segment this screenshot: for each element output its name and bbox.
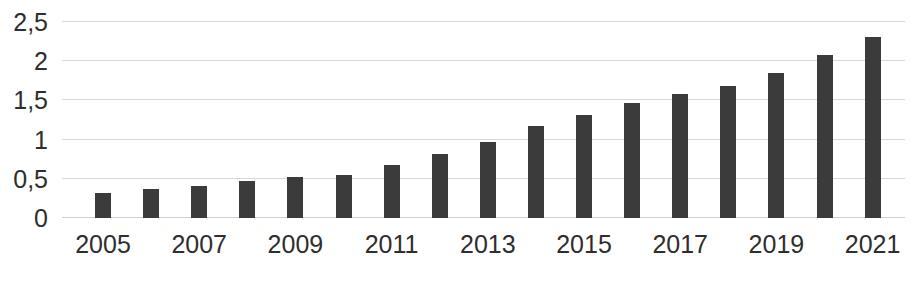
y-axis-tick-label: 1,5 bbox=[13, 88, 48, 113]
y-axis-tick-labels: 00,511,522,5 bbox=[0, 0, 56, 287]
bar bbox=[768, 73, 784, 218]
x-axis-tick-label: 2021 bbox=[845, 232, 901, 257]
bar-chart: 00,511,522,5 200520072009201120132015201… bbox=[0, 0, 917, 287]
x-axis-tick-label: 2009 bbox=[268, 232, 324, 257]
bar bbox=[143, 189, 159, 218]
x-axis-tick-label: 2011 bbox=[365, 232, 419, 257]
y-axis-tick-label: 0,5 bbox=[13, 166, 48, 191]
bar bbox=[287, 177, 303, 218]
bar bbox=[432, 154, 448, 218]
y-axis-tick-label: 2,5 bbox=[13, 10, 48, 35]
x-axis-tick-label: 2005 bbox=[75, 232, 131, 257]
bar bbox=[191, 186, 207, 218]
x-axis-tick-label: 2019 bbox=[749, 232, 805, 257]
bar bbox=[720, 86, 736, 218]
x-axis-tick-label: 2015 bbox=[556, 232, 612, 257]
bar bbox=[384, 165, 400, 218]
x-axis-tick-label: 2013 bbox=[460, 232, 516, 257]
bar bbox=[865, 37, 881, 218]
bar bbox=[480, 142, 496, 218]
bar bbox=[95, 193, 111, 218]
x-axis-tick-labels: 200520072009201120132015201720192021 bbox=[62, 232, 905, 272]
bar-series bbox=[62, 22, 905, 218]
bar bbox=[528, 126, 544, 218]
bar bbox=[239, 181, 255, 218]
x-axis-tick-label: 2017 bbox=[652, 232, 708, 257]
y-axis-tick-label: 1 bbox=[34, 127, 48, 152]
y-axis-tick-label: 0 bbox=[34, 206, 48, 231]
bar bbox=[817, 55, 833, 218]
bar bbox=[576, 115, 592, 218]
y-axis-tick-label: 2 bbox=[34, 49, 48, 74]
bar bbox=[624, 103, 640, 218]
bar bbox=[672, 94, 688, 218]
bar bbox=[336, 175, 352, 218]
x-axis-tick-label: 2007 bbox=[171, 232, 227, 257]
